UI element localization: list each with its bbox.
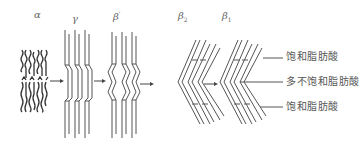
alpha-chain — [29, 82, 31, 112]
gamma-form-chains — [65, 30, 92, 138]
arrow-alpha-to-gamma — [50, 79, 64, 83]
beta2-chain — [178, 40, 200, 124]
alpha-chain — [25, 50, 27, 78]
annotation-saturated-top: 饱和脂肪酸 — [286, 52, 339, 62]
arrow-beta2-to-beta1 — [204, 82, 218, 86]
gamma-chain — [75, 30, 78, 138]
alpha-chain — [45, 82, 47, 106]
arrow-gamma-to-beta-prime — [94, 79, 106, 83]
beta-prime-chain — [122, 32, 126, 138]
alpha-chain — [37, 50, 39, 74]
alpha-form-chains — [21, 50, 48, 112]
alpha-chain — [21, 50, 23, 72]
beta-prime-chain — [132, 32, 136, 138]
beta-prime-chain — [126, 36, 130, 134]
gamma-chain — [89, 34, 92, 134]
annotation-saturated-bottom: 饱和脂肪酸 — [286, 102, 339, 112]
alpha-chain — [45, 50, 47, 76]
alpha-chain — [33, 52, 35, 76]
alpha-chain — [25, 82, 27, 112]
gamma-chain — [85, 30, 88, 138]
beta2-chain — [188, 40, 210, 124]
beta-prime-chain — [136, 36, 140, 134]
alpha-chain — [37, 82, 39, 112]
beta-prime-chain — [112, 36, 116, 134]
beta2-chain — [198, 44, 220, 120]
arrow-beta-prime-to-beta2 — [140, 82, 154, 86]
annotation-polyunsaturated: 多不饱和脂肪酸 — [286, 77, 360, 87]
gamma-chain — [65, 30, 68, 138]
beta-prime-chain — [108, 32, 112, 138]
gamma-chain — [69, 34, 72, 134]
beta-prime-form-chains — [108, 32, 140, 138]
beta2-form-chains — [178, 40, 224, 124]
gamma-chain — [79, 34, 82, 134]
alpha-chain — [33, 82, 35, 110]
alpha-chain — [21, 82, 23, 112]
beta1-chain — [220, 40, 242, 124]
alpha-chain — [41, 82, 43, 112]
alpha-chain — [29, 50, 31, 74]
alpha-chain — [41, 50, 43, 76]
